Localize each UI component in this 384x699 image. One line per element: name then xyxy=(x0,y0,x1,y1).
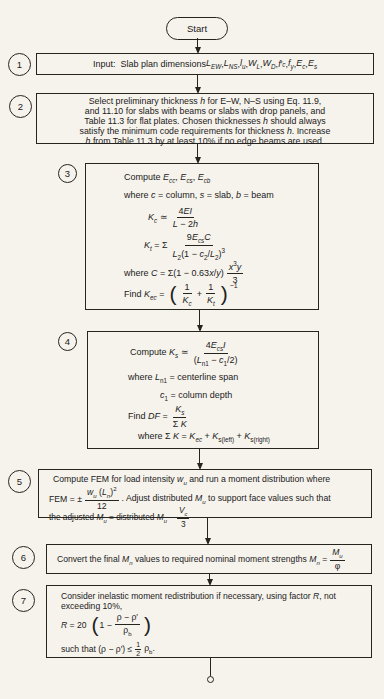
fem-post-text: . Adjust distributed Mu to support face … xyxy=(122,493,331,505)
df-numerator: Ks xyxy=(173,404,186,418)
arrow-5-to-6 xyxy=(207,518,208,543)
half-fraction: 1 2 xyxy=(135,641,141,658)
kec-lhs: Find Kec = xyxy=(124,289,164,301)
ks-equation: Compute Ks ≃ 4EcsI (Ln1 − c1/2) xyxy=(130,340,243,367)
r-lhs: R = 20 xyxy=(61,620,87,630)
kt-equation: Kt = Σ 9EcsC L2(1 − c2/L2)3 xyxy=(144,232,230,261)
where-csb-line: where c = column, s = slab, b = beam xyxy=(124,190,274,200)
step-box-7-redistribution: Consider inelastic moment redistribution… xyxy=(46,585,372,658)
where-c1-line: c1 = column depth xyxy=(160,390,232,402)
kc-equation: Kc ≃ 4EI L − 2h xyxy=(148,206,203,229)
kt-fraction: 9EcsC L2(1 − c2/L2)3 xyxy=(171,232,227,261)
close-paren: ) xyxy=(221,285,228,304)
kt-denominator: L2(1 − c2/L2)3 xyxy=(171,246,227,261)
kec-fraction-2: 1 Kt xyxy=(205,282,217,307)
where-ln1-line: where Ln1 = centerline span xyxy=(128,372,238,384)
such-that-line: such that (ρ − ρ′) ≤ 1 2 ρb. xyxy=(61,641,155,658)
vc-fraction: Vc 3 xyxy=(177,506,189,529)
kec-plus: + xyxy=(197,289,202,299)
kt-numerator: 9EcsC xyxy=(185,232,213,246)
step-circle-4: 4 xyxy=(58,332,77,351)
arrow-start-to-1 xyxy=(197,38,198,52)
df-equation: Find DF = Ks Σ K xyxy=(128,404,192,429)
c-lhs: where C = Σ(1 − 0.63x/y) xyxy=(124,268,224,278)
kc-denominator: L − 2h xyxy=(171,218,200,229)
kec-exponent: −1 xyxy=(230,282,238,289)
open-paren: ( xyxy=(169,285,176,304)
arrow-3-to-4 xyxy=(199,310,200,330)
r-equation: R = 20 ( 1 − ρ − ρ′ ρb ) xyxy=(61,613,152,637)
redistribution-line-2: exceeding 10%, xyxy=(61,601,122,611)
step-circle-7: 7 xyxy=(12,589,35,612)
step-box-5-fem: Compute FEM for load intensity wu and ru… xyxy=(38,469,372,518)
arrow-2-to-3 xyxy=(197,144,198,162)
step-circle-2: 2 xyxy=(9,95,32,118)
arrow-4-to-5 xyxy=(199,449,200,468)
step-box-3-stiffness: Compute Ecc, Ecs, Ecb where c = column, … xyxy=(85,163,319,310)
step-box-4-distribution-factor: Compute Ks ≃ 4EcsI (Ln1 − c1/2) where Ln… xyxy=(87,331,319,449)
rho-fraction: ρ − ρ′ ρb xyxy=(115,613,140,637)
fem-lhs: FEM = ± xyxy=(49,494,82,504)
open-paren: ( xyxy=(92,616,99,635)
close-paren: ) xyxy=(144,616,151,635)
adjusted-mu-equation: the adjusted Mu = distributed Mu − Vc 3 xyxy=(49,506,192,529)
start-label: Start xyxy=(187,23,207,34)
mn-lhs: Convert the final Mn values to required … xyxy=(57,554,327,566)
step-circle-5: 5 xyxy=(8,470,31,493)
fem-line-1: Compute FEM for load intensity wu and ru… xyxy=(53,474,330,486)
vc-denominator: 3 xyxy=(179,519,188,529)
step-box-6-nominal-strength: Convert the final Mn values to required … xyxy=(46,544,372,574)
sum-k-line: where Σ K = Kec + Ks(left) + Ks(right) xyxy=(138,431,270,443)
flowchart-page: Start 1 2 3 4 5 6 7 Input: Slab plan dim… xyxy=(0,0,384,699)
mn-fraction: Mu φ xyxy=(330,548,345,572)
step-circle-1: 1 xyxy=(8,53,31,76)
r-inner-pre: 1 − xyxy=(100,620,112,630)
kc-numerator: 4EI xyxy=(177,206,195,218)
thickness-line-5: h from Table 11.3 by at least 10% if no … xyxy=(37,137,373,147)
df-lhs: Find DF = xyxy=(128,411,168,421)
such-that-rhs: ρb. xyxy=(144,643,155,655)
kc-fraction: 4EI L − 2h xyxy=(171,206,200,229)
c-numerator: x3y xyxy=(227,260,244,274)
rho-numerator: ρ − ρ′ xyxy=(115,613,140,625)
kec-fraction-1: 1 Kc xyxy=(180,282,193,307)
input-text: Input: Slab plan dimensions LEW, LNS, lu… xyxy=(37,54,373,74)
adjusted-mu-lhs: the adjusted Mu = distributed Mu − xyxy=(49,512,174,524)
vc-numerator: Vc xyxy=(177,506,189,519)
line-7-to-connector xyxy=(210,658,211,676)
kc-lhs: Kc ≃ xyxy=(148,212,168,224)
ks-lhs: Compute Ks ≃ xyxy=(130,347,189,359)
arrow-6-to-7 xyxy=(209,574,210,584)
kt-lhs: Kt = Σ xyxy=(144,240,168,252)
arrow-1-to-2 xyxy=(197,75,198,92)
step-circle-3: 3 xyxy=(58,164,77,183)
step-box-2-thickness: Select preliminary thickness h for E–W, … xyxy=(36,93,374,144)
fem-numerator: wu (Ln)2 xyxy=(85,486,119,501)
start-node: Start xyxy=(166,17,228,40)
ks-denominator: (Ln1 − c1/2) xyxy=(192,354,240,367)
mn-numerator: Mu xyxy=(330,548,345,561)
df-denominator: Σ K xyxy=(171,418,189,429)
redistribution-line-1: Consider inelastic moment redistribution… xyxy=(61,591,336,601)
df-fraction: Ks Σ K xyxy=(171,404,189,429)
ks-fraction: 4EcsI (Ln1 − c1/2) xyxy=(192,340,240,367)
rho-denominator: ρb xyxy=(121,625,133,637)
such-that-lhs: such that (ρ − ρ′) ≤ xyxy=(61,644,132,654)
ks-numerator: 4EcsI xyxy=(204,340,228,354)
off-page-connector-icon xyxy=(207,676,214,683)
step-box-1-input: Input: Slab plan dimensions LEW, LNS, lu… xyxy=(36,53,374,75)
kec-equation: Find Kec = ( 1 Kc + 1 Kt ) −1 xyxy=(124,282,238,307)
step-circle-6: 6 xyxy=(12,546,35,569)
compute-e-title: Compute Ecc, Ecs, Ecb xyxy=(124,172,210,184)
mn-equation: Convert the final Mn values to required … xyxy=(57,548,348,572)
mn-denominator: φ xyxy=(333,561,343,572)
